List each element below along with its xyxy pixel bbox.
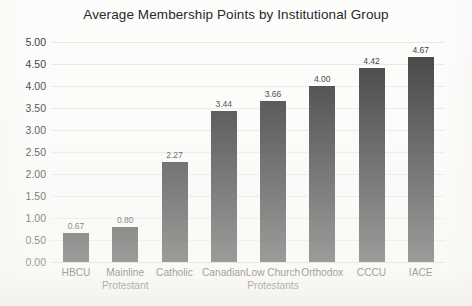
gridline (51, 86, 445, 87)
y-tick-label: 1.50 (8, 190, 46, 202)
x-tick-label: IACE (384, 266, 458, 279)
bar-value-label: 2.27 (152, 150, 198, 160)
bar[interactable] (162, 162, 188, 262)
bar[interactable] (211, 111, 237, 262)
y-tick-label: 3.00 (8, 124, 46, 136)
y-tick-label: 5.00 (8, 36, 46, 48)
bar[interactable] (359, 68, 385, 262)
bar-value-label: 4.42 (349, 56, 395, 66)
y-tick-label: 2.50 (8, 146, 46, 158)
x-tick-label-line2: Protestants (236, 279, 310, 292)
bar[interactable] (112, 227, 138, 262)
gridline (51, 240, 445, 241)
y-tick-label: 2.00 (8, 168, 46, 180)
gridline (51, 42, 445, 43)
bar-value-label: 3.66 (250, 89, 296, 99)
bar[interactable] (63, 233, 89, 262)
bar-value-label: 0.67 (53, 221, 99, 231)
bar[interactable] (260, 101, 286, 262)
gridline (51, 108, 445, 109)
gridline (51, 130, 445, 131)
gridline (51, 262, 445, 263)
y-tick-label: 4.00 (8, 80, 46, 92)
bar-value-label: 3.44 (201, 99, 247, 109)
y-tick-label: 4.50 (8, 58, 46, 70)
bar-chart: Average Membership Points by Institution… (0, 0, 472, 306)
gridline (51, 174, 445, 175)
bar[interactable] (309, 86, 335, 262)
y-tick-label: 3.50 (8, 102, 46, 114)
bar-value-label: 4.00 (299, 74, 345, 84)
gridline (51, 152, 445, 153)
y-tick-label: 1.00 (8, 212, 46, 224)
bar-value-label: 0.80 (102, 215, 148, 225)
gridline (51, 196, 445, 197)
bar-value-label: 4.67 (398, 45, 444, 55)
plot-area: 0.670.802.273.443.664.004.424.67 (51, 42, 445, 262)
y-tick-label: 0.50 (8, 234, 46, 246)
bar[interactable] (408, 57, 434, 262)
x-tick-label-line2: Protestant (88, 279, 162, 292)
